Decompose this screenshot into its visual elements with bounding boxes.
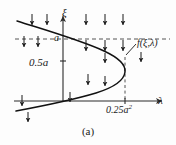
- x-tick-label-quarter-a-squared: 0.25a2: [106, 104, 132, 115]
- y-axis-label: ξ: [62, 7, 67, 18]
- figure-container: ξ λ a 0.5a 0.25a2 f(ξ,λ) (a): [0, 0, 176, 145]
- y-tick-label-half-a: 0.5a: [29, 57, 48, 68]
- x-axis-label: λ: [158, 95, 163, 106]
- x-tick-label-quarter-exponent: 2: [129, 103, 133, 111]
- reference-lines: [15, 39, 170, 101]
- curve-label-leader-line: [126, 44, 136, 55]
- curve-label: f(ξ,λ): [137, 38, 158, 48]
- y-tick-label-a: a: [54, 33, 59, 43]
- x-tick-label-quarter-base: 0.25a: [106, 104, 129, 115]
- bifurcation-diagram-svg: [0, 0, 176, 145]
- figure-caption: (a): [0, 126, 176, 137]
